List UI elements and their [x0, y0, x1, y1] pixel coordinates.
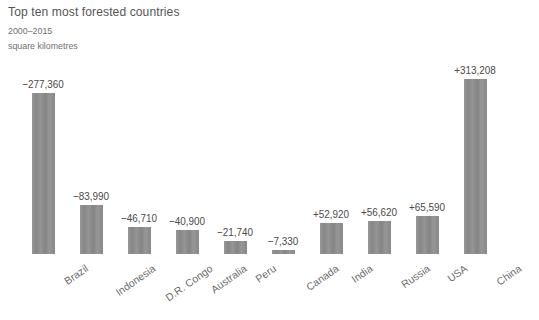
category-label: Russia — [399, 262, 432, 290]
bar-value-label: +52,920 — [313, 208, 349, 220]
plot-area: −277,360Brazil−83,990Indonesia−46,710D.R… — [0, 0, 539, 320]
bar-group: −7,330 — [259, 64, 307, 254]
bar-value-label: −277,360 — [22, 78, 64, 90]
bar-group: −40,900 — [163, 64, 211, 254]
bar-value-label: −46,710 — [121, 212, 157, 224]
bar-group: −46,710 — [115, 64, 163, 254]
bar — [224, 241, 247, 254]
bar-group: +65,590 — [403, 64, 451, 254]
bar-group: −83,990 — [67, 64, 115, 254]
category-label: Canada — [304, 262, 341, 293]
bar-group: +52,920 — [307, 64, 355, 254]
category-label: China — [494, 262, 523, 288]
forestation-bar-chart: Top ten most forested countries 2000–201… — [0, 0, 539, 320]
bar-value-label: −7,330 — [268, 235, 299, 247]
bar — [80, 205, 103, 254]
bar-group: −277,360 — [19, 64, 67, 254]
bar-value-label: −40,900 — [169, 215, 205, 227]
bar — [128, 227, 151, 254]
category-label: Brazil — [62, 262, 90, 287]
bar-group: +56,620 — [355, 64, 403, 254]
bar-value-label: −83,990 — [73, 190, 109, 202]
category-label: Australia — [208, 262, 248, 295]
bar-group: +313,208 — [451, 64, 499, 254]
category-label: Indonesia — [113, 262, 157, 298]
bar — [176, 230, 199, 254]
bar — [416, 216, 439, 254]
category-label: Peru — [253, 262, 278, 285]
category-label: India — [349, 262, 375, 285]
bar — [32, 93, 55, 254]
bar — [368, 221, 391, 254]
category-label: USA — [445, 262, 470, 284]
bar — [272, 250, 295, 254]
bar — [320, 223, 343, 254]
category-label: D.R. Congo — [163, 262, 215, 303]
bar-value-label: +65,590 — [409, 201, 445, 213]
bar-value-label: +56,620 — [361, 206, 397, 218]
bar-value-label: +313,208 — [454, 64, 496, 76]
bar — [464, 79, 487, 254]
bar-value-label: −21,740 — [217, 226, 253, 238]
bar-group: −21,740 — [211, 64, 259, 254]
